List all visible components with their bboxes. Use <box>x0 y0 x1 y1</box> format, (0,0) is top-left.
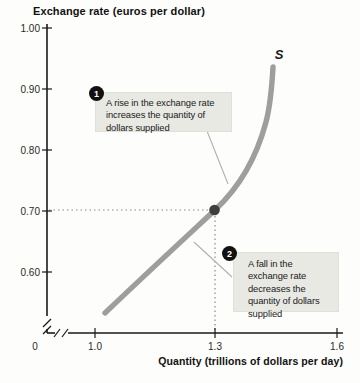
callout-1-number-badge: 1 <box>89 86 104 101</box>
callout-2-number: 2 <box>227 249 232 259</box>
callout-rise-in-exchange-rate: A rise in the exchange rate increases th… <box>95 92 232 132</box>
x-tick-label: 0 <box>32 341 38 352</box>
y-tick-label: 0.70 <box>21 206 41 217</box>
y-axis-break-mark <box>43 319 51 327</box>
callout-1-leader-line <box>207 131 228 184</box>
highlight-point-dot <box>209 205 220 216</box>
callout-1-text: A rise in the exchange rate increases th… <box>106 97 214 133</box>
y-tick-label: 1.00 <box>21 23 41 34</box>
x-tick-label: 1.3 <box>208 341 222 352</box>
y-tick-label: 0.60 <box>21 267 41 278</box>
callout-2-number-badge: 2 <box>222 246 237 261</box>
figure-supply-of-dollars: Exchange rate (euros per dollar) <box>0 0 360 383</box>
y-tick-label: 0.80 <box>21 145 41 156</box>
supply-curve-label: S <box>275 47 284 62</box>
y-tick-label: 0.90 <box>21 84 41 95</box>
callout-fall-in-exchange-rate: A fall in the exchange rate decreases th… <box>233 252 339 312</box>
chart-plot-area: 1.00 0.90 0.80 0.70 0.60 0 1.0 1.3 1.6 S <box>0 0 360 383</box>
callout-2-text: A fall in the exchange rate decreases th… <box>248 258 320 319</box>
x-axis-title: Quantity (trillions of dollars per day) <box>158 355 343 367</box>
callout-1-number: 1 <box>94 89 99 99</box>
x-axis-break-mark <box>62 329 68 337</box>
x-tick-label: 1.6 <box>330 341 344 352</box>
x-tick-label: 1.0 <box>88 341 102 352</box>
